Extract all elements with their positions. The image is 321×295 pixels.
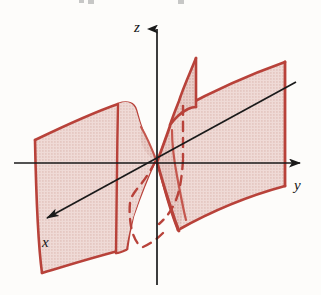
hidden-edge-center [143, 233, 163, 247]
z-axis-label: z [133, 19, 140, 35]
y-axis-label: y [292, 177, 301, 193]
surface-plot-canvas: z y x [0, 0, 321, 295]
x-axis-label: x [41, 234, 49, 250]
figure-container: z y x [0, 0, 321, 295]
